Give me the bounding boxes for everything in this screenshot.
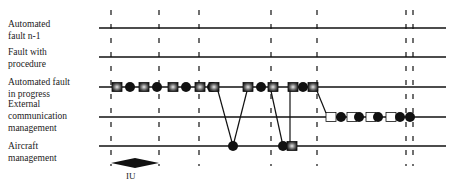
transition-link <box>271 91 283 146</box>
event-dot <box>256 82 266 92</box>
transition-link <box>317 91 326 113</box>
event-square <box>112 83 122 92</box>
iu-label: IU <box>126 171 136 181</box>
event-square <box>268 83 278 92</box>
event-square <box>168 83 178 92</box>
event-square <box>288 83 298 92</box>
event-square <box>139 83 149 92</box>
event-dot <box>278 141 288 151</box>
event-dot <box>298 82 308 92</box>
event-dot <box>125 82 135 92</box>
event-square <box>308 83 318 92</box>
iu-interval-arrow <box>111 158 159 168</box>
event-square <box>195 83 205 92</box>
event-dot <box>395 112 405 122</box>
event-dot <box>181 82 191 92</box>
event-dot <box>354 112 364 122</box>
event-square <box>243 83 253 92</box>
event-square <box>287 142 297 151</box>
event-square <box>209 83 219 92</box>
event-square-light <box>386 113 396 122</box>
event-dot <box>336 112 346 122</box>
timeline-diagram <box>0 0 454 195</box>
transition-link <box>218 91 233 146</box>
event-dot <box>405 112 415 122</box>
transition-link <box>233 91 247 146</box>
event-dot <box>373 112 383 122</box>
event-square-light <box>326 113 336 122</box>
event-dot <box>152 82 162 92</box>
